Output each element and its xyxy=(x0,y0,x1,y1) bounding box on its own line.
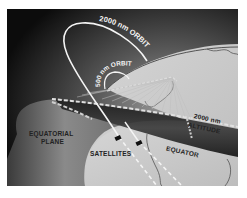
diagram-frame: 2000 nm ORBIT 500 nm ORBIT 2000 nm ALTIT… xyxy=(7,9,238,186)
label-satellites: SATELLITES xyxy=(90,150,132,157)
label-equatorial: EQUATORIAL xyxy=(29,130,73,138)
label-plane: PLANE xyxy=(41,138,64,145)
orbit-diagram: 2000 nm ORBIT 500 nm ORBIT 2000 nm ALTIT… xyxy=(7,9,238,186)
